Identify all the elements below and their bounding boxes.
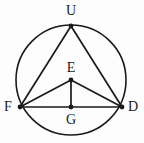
- vertex-label-g: G: [66, 113, 76, 127]
- vertex-label-d: D: [128, 100, 138, 114]
- vertex-label-u: U: [66, 4, 76, 18]
- vertex-dot-d: [120, 105, 125, 110]
- geometry-figure: UEFDG: [0, 0, 144, 143]
- vertex-dot-f: [18, 105, 23, 110]
- segment-ud: [71, 26, 122, 107]
- vertex-dot-e: [69, 78, 74, 83]
- vertex-dot-g: [69, 105, 74, 110]
- vertex-label-e: E: [67, 61, 76, 75]
- vertex-label-f: F: [4, 100, 12, 114]
- vertex-dot-u: [69, 24, 74, 29]
- segment-uf: [20, 26, 71, 107]
